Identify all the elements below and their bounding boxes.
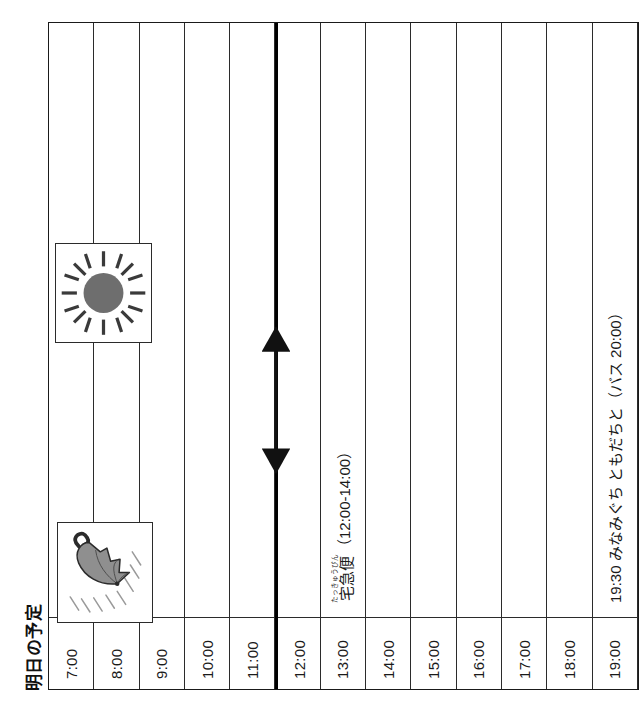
- schedule-row[interactable]: 11:00: [230, 23, 275, 689]
- row-note-text: 19:30 みなみぐち ともだちと（バス 20:00）: [604, 305, 625, 603]
- row-time-label: 16:00: [457, 617, 501, 689]
- row-note-cell[interactable]: 19:30 みなみぐち ともだちと（バス 20:00）: [593, 23, 637, 617]
- row-time-label: 8:00: [94, 617, 138, 689]
- schedule-row[interactable]: 13:00たっきゅうびん宅急便（12:00-14:00）: [321, 23, 366, 689]
- schedule-row[interactable]: 14:00: [366, 23, 411, 689]
- row-note-cell[interactable]: [411, 23, 455, 617]
- note-tail-text: （12:00-14:00）: [333, 444, 354, 554]
- row-note-cell[interactable]: [230, 23, 274, 617]
- schedule-row[interactable]: 12:00: [275, 23, 320, 689]
- umbrella-rain-icon: [57, 522, 153, 623]
- row-time-label: 12:00: [278, 617, 319, 689]
- row-time-label: 10:00: [185, 617, 229, 689]
- schedule-row[interactable]: 16:00: [457, 23, 502, 689]
- schedule-row[interactable]: 18:00: [547, 23, 592, 689]
- row-note-cell[interactable]: [278, 23, 319, 617]
- row-note-cell[interactable]: [457, 23, 501, 617]
- schedule-row[interactable]: 10:00: [185, 23, 230, 689]
- sun-icon: [55, 243, 152, 343]
- row-time-label: 15:00: [411, 617, 455, 689]
- schedule-table: 7:00お起きる？8:009:0010:0011:0012:0013:00たっき…: [48, 22, 639, 690]
- row-note-cell[interactable]: [502, 23, 546, 617]
- schedule-row[interactable]: 19:0019:30 みなみぐち ともだちと（バス 20:00）: [593, 23, 638, 689]
- schedule-row[interactable]: 17:00: [502, 23, 547, 689]
- row-time-label: 19:00: [593, 617, 637, 689]
- row-time-label: 7:00: [49, 617, 93, 689]
- row-note-cell[interactable]: たっきゅうびん宅急便（12:00-14:00）: [321, 23, 365, 617]
- page-title: 明日の予定: [20, 604, 45, 692]
- row-time-label: 17:00: [502, 617, 546, 689]
- row-time-label: 9:00: [140, 617, 184, 689]
- row-time-label: 11:00: [230, 617, 274, 689]
- row-note-cell[interactable]: [185, 23, 229, 617]
- row-note-cell[interactable]: [366, 23, 410, 617]
- row-time-label: 13:00: [321, 617, 365, 689]
- schedule-row[interactable]: 15:00: [411, 23, 456, 689]
- ruby-annotation: たっきゅうびん宅急便: [332, 554, 355, 603]
- kanji-base-text: 宅急便: [339, 556, 354, 601]
- row-time-label: 14:00: [366, 617, 410, 689]
- row-note-text: たっきゅうびん宅急便（12:00-14:00）: [332, 444, 355, 603]
- row-note-cell[interactable]: [547, 23, 591, 617]
- row-time-label: 18:00: [547, 617, 591, 689]
